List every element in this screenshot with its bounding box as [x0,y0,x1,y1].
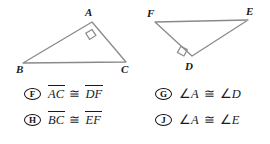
choice-letter-f: F [30,90,36,99]
vertex-label-D: D [185,61,193,72]
choice-letter-g: G [160,90,167,99]
choice-letter-j: J [161,116,166,125]
choice-bubble-j[interactable]: J [155,114,172,126]
choice-bubble-h[interactable]: H [24,114,41,126]
choice-text-j: ∠A ≅ ∠E [179,113,240,127]
angle-a-g: A [191,87,199,101]
segment-ef: EF [85,113,101,127]
choice-text-h: BC ≅ EF [48,113,101,127]
choice-bubble-g[interactable]: G [155,88,172,100]
vertex-label-B: B [16,64,23,75]
answer-choices: F AC ≅ DF G ∠A ≅ ∠D H BC ≅ EF J [0,80,270,144]
geometry-figure-area: A B C F E D [0,0,270,80]
triangles-diagram [0,0,270,80]
segment-ac: AC [48,87,64,101]
congruent-symbol-h: ≅ [69,113,80,127]
angle-symbol-j-left: ∠ [179,113,191,127]
answer-choice-h[interactable]: H BC ≅ EF [24,110,101,130]
angle-a-j: A [191,113,199,127]
angle-symbol-j-right: ∠ [220,113,232,127]
vertex-label-C: C [121,64,128,75]
vertex-label-A: A [85,7,92,18]
segment-df: DF [85,87,102,101]
congruent-symbol-g: ≅ [204,87,215,101]
angle-symbol-g-left: ∠ [179,87,191,101]
congruent-symbol-f: ≅ [69,87,80,101]
choice-text-f: AC ≅ DF [48,87,102,101]
vertex-label-F: F [147,8,154,19]
choice-letter-h: H [29,116,36,125]
answer-choice-j[interactable]: J ∠A ≅ ∠E [155,110,240,130]
angle-d-g: D [232,87,241,101]
answer-choice-g[interactable]: G ∠A ≅ ∠D [155,84,241,104]
vertex-label-E: E [246,6,253,17]
angle-symbol-g-right: ∠ [220,87,232,101]
triangle-ABC-shape [23,22,126,63]
answer-choice-f[interactable]: F AC ≅ DF [24,84,102,104]
choice-bubble-f[interactable]: F [24,88,41,100]
angle-e-j: E [232,113,240,127]
choice-text-g: ∠A ≅ ∠D [179,87,241,101]
segment-bc: BC [48,113,64,127]
triangle-DEF-shape [155,20,248,56]
congruent-symbol-j: ≅ [204,113,215,127]
